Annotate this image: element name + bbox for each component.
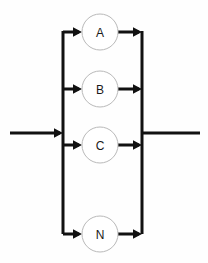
branch-in-arrow-icon-n xyxy=(73,229,82,239)
branch-in-arrow-icon-c xyxy=(73,140,82,150)
node-n[interactable]: N xyxy=(82,216,118,252)
node-a[interactable]: A xyxy=(82,14,118,50)
node-label-a: A xyxy=(96,26,104,40)
block-diagram: A B C N xyxy=(0,0,208,263)
node-c[interactable]: C xyxy=(82,127,118,163)
branch-in-arrow-icon-b xyxy=(73,84,82,94)
node-label-n: N xyxy=(96,228,105,242)
branch-in-arrow-icon-a xyxy=(73,27,82,37)
diagram-canvas: A B C N xyxy=(0,0,208,263)
node-label-b: B xyxy=(96,83,104,97)
node-label-c: C xyxy=(96,139,105,153)
node-b[interactable]: B xyxy=(82,71,118,107)
